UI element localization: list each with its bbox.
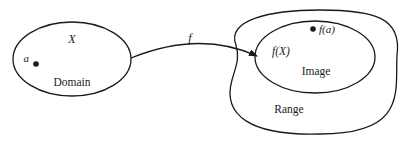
point-a-dot [33,61,39,67]
image-set-label: f(X) [272,45,290,58]
point-fa-dot [310,26,316,32]
point-a-label: a [24,52,30,64]
image-ellipse [255,21,375,93]
function-label: f [188,31,193,45]
range-label: Range [274,103,303,116]
function-diagram: X a Domain f Range f(X) Image f(a) [0,0,409,145]
point-fa-label: f(a) [319,23,335,36]
domain-set-label: X [67,32,76,46]
image-label: Image [302,65,331,78]
domain-label: Domain [53,76,90,88]
diagram-svg: X a Domain f Range f(X) Image f(a) [0,0,409,145]
